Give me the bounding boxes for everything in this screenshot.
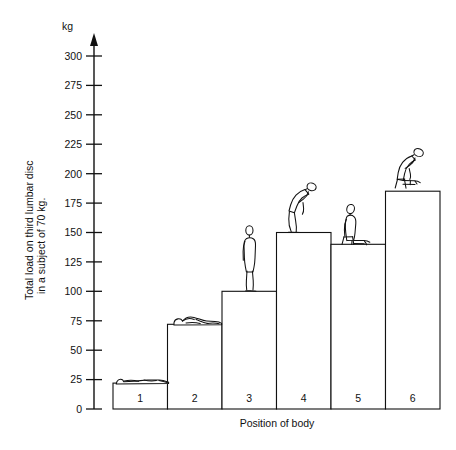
bar-label-5: 5 (355, 392, 361, 404)
bar-6[interactable] (386, 191, 441, 409)
bar-4[interactable] (277, 233, 332, 410)
y-tick-label-150: 150 (64, 226, 82, 238)
chart-container: kg 0 25 50 75 100 125 15 (0, 0, 456, 450)
lumbar-disc-load-bar-chart: kg 0 25 50 75 100 125 15 (0, 0, 456, 450)
y-tick-label-50: 50 (70, 344, 82, 356)
y-tick-label-275: 275 (64, 79, 82, 91)
y-tick-label-125: 125 (64, 256, 82, 268)
y-axis-title-line1: Total load on third lumbar disc (23, 161, 35, 301)
bar-label-2: 2 (192, 392, 198, 404)
bar-label-6: 6 (410, 392, 416, 404)
bar-label-3: 3 (246, 392, 252, 404)
y-tick-label-300: 300 (64, 50, 82, 62)
y-tick-label-175: 175 (64, 197, 82, 209)
bar-5[interactable] (331, 244, 386, 409)
x-axis-title: Position of body (240, 417, 315, 429)
y-tick-label-100: 100 (64, 285, 82, 297)
y-tick-label-25: 25 (70, 373, 82, 385)
bar-label-1: 1 (137, 392, 143, 404)
y-tick-label-200: 200 (64, 168, 82, 180)
bar-label-4: 4 (301, 392, 307, 404)
y-tick-label-75: 75 (70, 315, 82, 327)
y-tick-label-0: 0 (76, 403, 82, 415)
y-axis-unit-label: kg (62, 20, 73, 32)
y-tick-label-225: 225 (64, 138, 82, 150)
y-tick-label-250: 250 (64, 109, 82, 121)
y-axis-title-line2: in a subject of 70 kg. (35, 198, 47, 294)
